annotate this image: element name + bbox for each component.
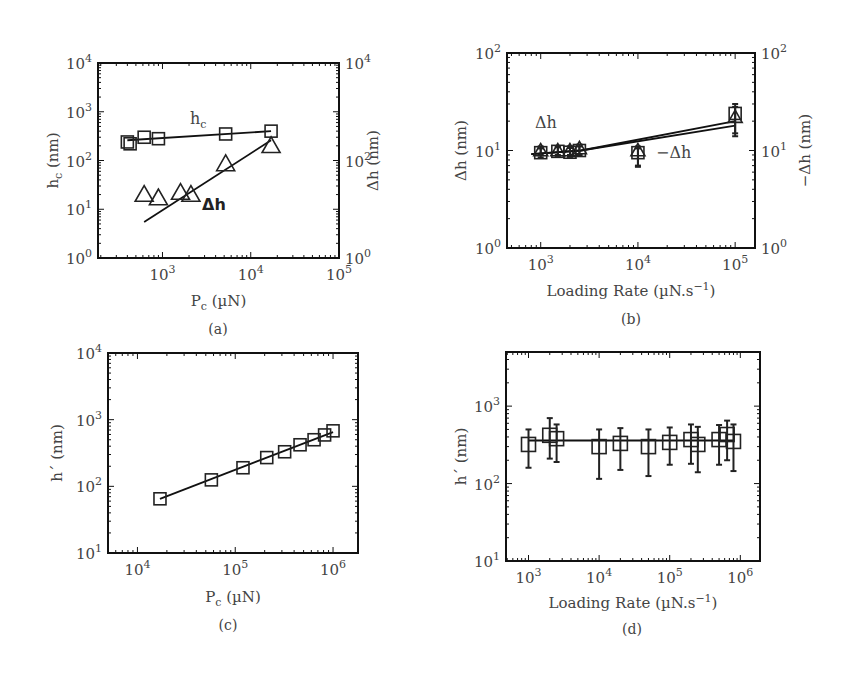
triangle-marker: [149, 189, 167, 205]
series-−Δh: [531, 104, 741, 167]
figure-canvas: 103104105100101102103104100102104Pc (µN)…: [0, 0, 847, 674]
plot-frame: [98, 63, 339, 258]
tick-label: 102: [76, 475, 102, 496]
y-axis-label: h´ (nm): [48, 424, 66, 482]
y-axis-label: Δh (nm): [452, 120, 470, 181]
tick-label: 103: [474, 395, 500, 416]
tick-label: 104: [345, 52, 371, 73]
x-axis-label: Loading Rate (µN.s−1): [547, 280, 716, 300]
y-axis-label-right: Δh (nm): [364, 130, 382, 191]
minor-ticks: [108, 353, 358, 553]
tick-label: 103: [149, 263, 175, 284]
tick-label: 104: [238, 263, 264, 284]
annotation-delta-h: Δh: [535, 113, 557, 132]
tick-label: 102: [761, 42, 787, 63]
tick-label: 103: [515, 566, 541, 587]
tick-label: 103: [528, 253, 554, 274]
tick-label: 106: [727, 566, 753, 587]
tick-label: 101: [475, 140, 501, 161]
tick-label: 101: [474, 550, 500, 571]
plot-frame: [506, 352, 760, 561]
x-axis-label: Pc (µN): [205, 588, 261, 609]
panel-caption: (c): [219, 617, 238, 633]
y-axis-label: h´ (nm): [452, 428, 470, 486]
tick-label: 101: [76, 542, 102, 563]
panel-caption: (a): [208, 321, 227, 337]
plot-frame: [108, 353, 358, 553]
tick-label: 104: [66, 52, 92, 73]
series-h´: [154, 425, 339, 505]
panel-a: 103104105100101102103104100102104Pc (µN)…: [44, 52, 382, 337]
tick-label: 101: [761, 140, 787, 161]
tick-label: 100: [761, 237, 787, 258]
series-h´: [522, 418, 741, 479]
panel-b: 103104105100101102100101102Loading Rate …: [452, 42, 814, 327]
tick-label: 103: [66, 101, 92, 122]
tick-label: 100: [345, 247, 371, 268]
annotation-neg-delta-h: −Δh: [656, 143, 691, 162]
y-axis-label-right: −Δh (nm): [796, 114, 814, 187]
tick-label: 106: [320, 558, 346, 579]
triangle-marker: [135, 186, 153, 202]
tick-label: 104: [625, 253, 651, 274]
tick-label: 102: [66, 150, 92, 171]
x-axis-label: Loading Rate (µN.s−1): [549, 592, 718, 612]
square-marker: [138, 131, 150, 143]
annotation-delta-h: Δh: [202, 195, 226, 214]
triangle-marker: [217, 155, 235, 171]
tick-label: 105: [722, 253, 748, 274]
tick-label: 102: [475, 42, 501, 63]
tick-label: 100: [66, 247, 92, 268]
tick-label: 105: [657, 566, 683, 587]
panel-c: 104105106101102103104Pc (µN)h´ (nm)(c): [48, 342, 358, 633]
tick-label: 104: [76, 342, 102, 363]
tick-label: 101: [66, 198, 92, 219]
panel-caption: (b): [621, 311, 641, 327]
panel-d: 103104105106101102103Loading Rate (µN.s−…: [452, 352, 760, 637]
square-marker: [327, 425, 339, 437]
minor-ticks: [506, 352, 760, 561]
x-axis-label: Pc (µN): [191, 292, 247, 313]
tick-label: 100: [475, 237, 501, 258]
tick-label: 103: [76, 409, 102, 430]
annotation-hc: hc: [190, 109, 206, 131]
fit-line: [127, 131, 271, 140]
tick-label: 105: [222, 558, 248, 579]
y-axis-label: hc (nm): [44, 132, 65, 188]
panel-caption: (d): [622, 621, 642, 637]
minor-ticks: [98, 63, 339, 258]
tick-label: 102: [474, 473, 500, 494]
tick-label: 104: [586, 566, 612, 587]
series-h_c: [121, 125, 277, 150]
tick-label: 104: [124, 558, 150, 579]
fit-line: [160, 432, 333, 499]
